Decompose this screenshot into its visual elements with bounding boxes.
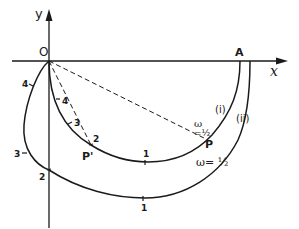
curve-ii-mark-2: 2 bbox=[39, 172, 45, 182]
curve-i-ticks bbox=[56, 99, 145, 165]
omega-annotation-ii: ω= ½ bbox=[196, 156, 228, 169]
curve-ii-mark-3: 3 bbox=[14, 149, 20, 159]
diagram-canvas: O y x A 4 3 2 1 4 3 2 1 P' P (i) (ii) ω … bbox=[0, 0, 299, 229]
point-p-label: P bbox=[205, 138, 213, 151]
x-axis bbox=[12, 58, 288, 65]
y-axis-label: y bbox=[35, 6, 43, 21]
y-axis bbox=[46, 9, 53, 228]
origin-label: O bbox=[39, 45, 48, 59]
omega-value-i: =½ bbox=[194, 128, 211, 138]
x-axis-label: x bbox=[270, 63, 278, 79]
cycloid-diagram: O y x A 4 3 2 1 4 3 2 1 P' P (i) (ii) ω … bbox=[0, 0, 299, 229]
curve-ii-ticks bbox=[22, 84, 143, 201]
point-p-prime-label: P' bbox=[82, 150, 93, 163]
curve-i-mark-1: 1 bbox=[143, 149, 149, 159]
curve-ii-mark-1: 1 bbox=[141, 203, 147, 213]
point-a-label: A bbox=[235, 46, 244, 59]
curve-ii-label: (ii) bbox=[236, 113, 249, 124]
y-axis-arrow-icon bbox=[46, 9, 53, 21]
curve-i-mark-4: 4 bbox=[62, 96, 68, 106]
curve-i-label: (i) bbox=[215, 104, 226, 115]
curve-i-mark-2: 2 bbox=[93, 134, 99, 144]
chord-o-p bbox=[49, 61, 204, 138]
curve-ii-mark-4: 4 bbox=[22, 79, 28, 89]
curve-i-mark-3: 3 bbox=[74, 118, 80, 128]
